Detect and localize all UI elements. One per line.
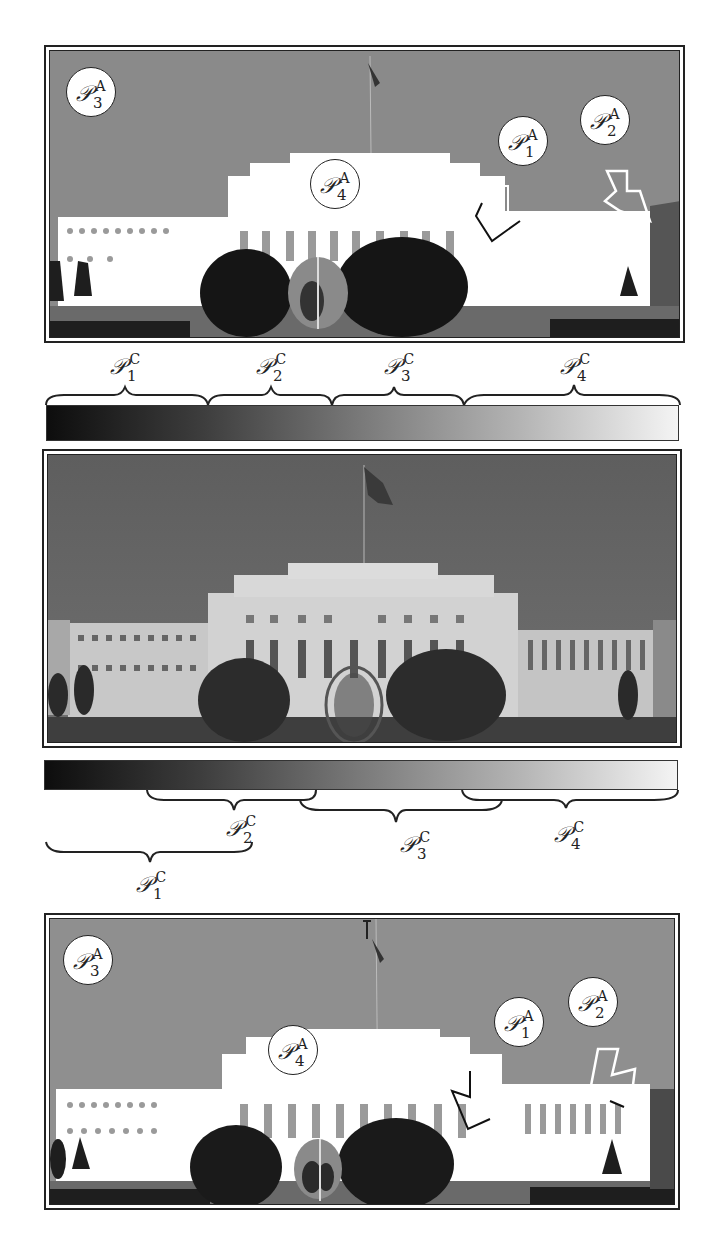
region-bubble-p1a: 𝒫1A [498, 116, 548, 166]
region-bubble-p4a: 𝒫4A [310, 159, 360, 209]
region-label-p2a: 𝒫2A [590, 107, 620, 139]
middle-original-panel [42, 449, 682, 748]
region-bubble-p4a-bottom: 𝒫4A [268, 1025, 318, 1075]
top-segmented-panel: 𝒫3A 𝒫4A 𝒫1A 𝒫2A [44, 45, 685, 343]
region-label-p1a-bottom: 𝒫1A [504, 1009, 534, 1041]
overlap-segmented-building-graphic [50, 919, 675, 1205]
bottom-segmented-panel: 𝒫3A 𝒫4A 𝒫1A 𝒫2A [44, 913, 680, 1210]
segmented-building-graphic [50, 51, 680, 338]
region-bubble-p3a-bottom: 𝒫3A [63, 935, 113, 985]
region-bubble-p2a: 𝒫2A [580, 95, 630, 145]
region-bubble-p1a-bottom: 𝒫1A [494, 997, 544, 1047]
partition-label-p3c: 𝒫3C [384, 352, 414, 384]
region-label-p1a: 𝒫1A [508, 128, 538, 160]
region-bubble-p3a: 𝒫3A [66, 67, 116, 117]
partition-label-p4c-overlap: 𝒫4C [554, 820, 584, 852]
region-bubble-p2a-bottom: 𝒫2A [568, 977, 618, 1027]
region-label-p4a: 𝒫4A [320, 171, 350, 203]
partition-label-p4c: 𝒫4C [560, 352, 590, 384]
region-label-p2a-bottom: 𝒫2A [578, 989, 608, 1021]
partition-label-p3c-overlap: 𝒫3C [400, 830, 430, 862]
partition-label-p1c-overlap: 𝒫1C [136, 870, 166, 902]
building-photo-graphic [48, 455, 677, 743]
partition-label-p2c: 𝒫2C [256, 352, 286, 384]
overlapping-braces [44, 790, 684, 870]
bottom-intensity-gradient-bar [44, 760, 678, 790]
region-label-p3a-bottom: 𝒫3A [73, 947, 103, 979]
top-partition: 𝒫1C 𝒫2C 𝒫3C 𝒫4C [44, 352, 684, 402]
original-photo [47, 454, 677, 743]
region-label-p3a: 𝒫3A [76, 79, 106, 111]
partition-label-p1c: 𝒫1C [110, 352, 140, 384]
top-intensity-gradient-bar [46, 405, 679, 441]
bottom-partition: 𝒫2C 𝒫3C 𝒫4C 𝒫1C [44, 790, 684, 910]
region-label-p4a-bottom: 𝒫4A [278, 1037, 308, 1069]
partition-label-p2c-overlap: 𝒫2C [226, 814, 256, 846]
bottom-segmented-image [49, 918, 675, 1205]
top-segmented-image [49, 50, 680, 338]
